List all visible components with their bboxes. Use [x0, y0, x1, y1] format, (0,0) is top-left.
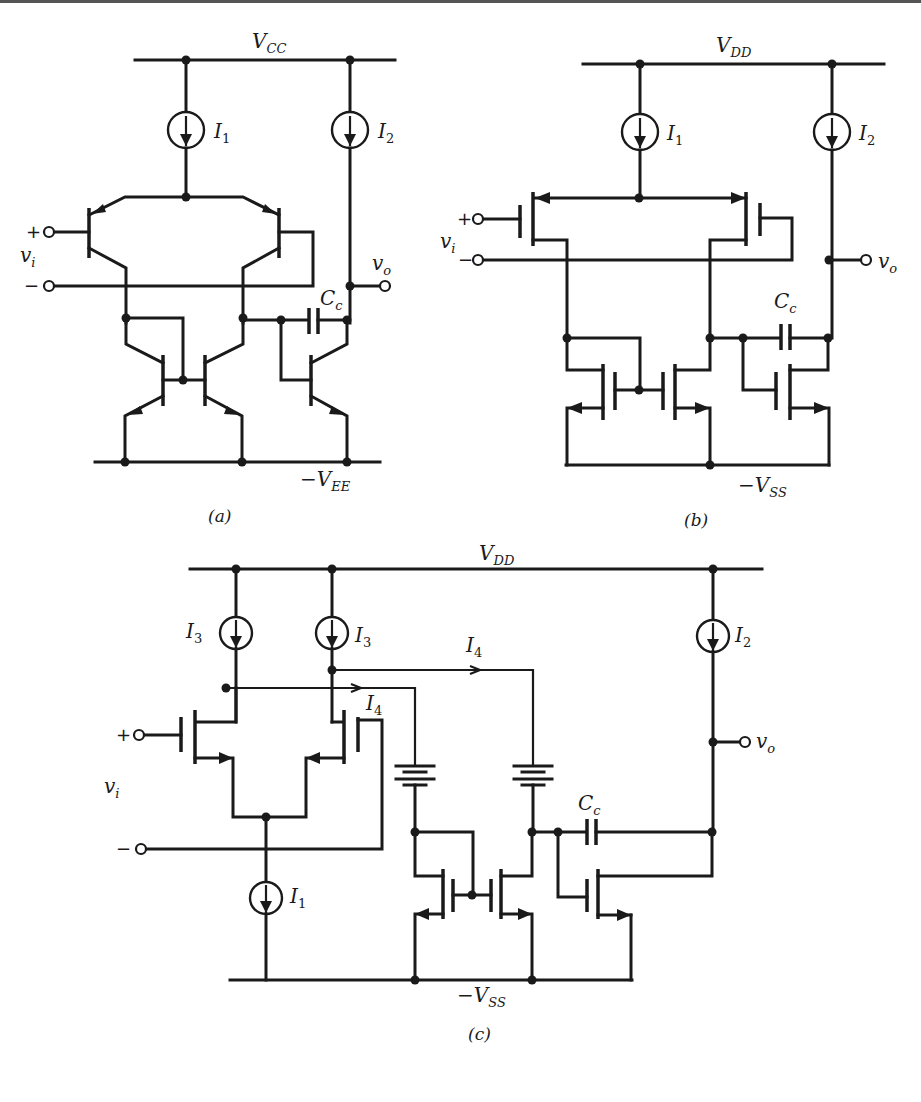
- current-source-icon: [814, 114, 850, 150]
- svg-text:−VSS: −VSS: [457, 983, 506, 1010]
- svg-text:I2: I2: [377, 119, 394, 146]
- circuit-figure: VCC I1 I2 + − vi vo Cc −VEE (a): [0, 0, 921, 1102]
- current-source-icon: [697, 620, 729, 652]
- svg-text:Cc: Cc: [578, 791, 601, 818]
- current-source-icon: [332, 112, 368, 148]
- svg-text:−: −: [116, 838, 131, 859]
- input-minus-terminal: [136, 844, 146, 854]
- caption-c: (c): [468, 1024, 491, 1044]
- svg-text:I2: I2: [858, 121, 875, 148]
- svg-text:vi: vi: [440, 229, 455, 256]
- input-plus-terminal: [134, 730, 144, 740]
- svg-text:I1: I1: [213, 119, 230, 146]
- battery-icon: [396, 766, 434, 785]
- svg-text:−VEE: −VEE: [300, 467, 351, 494]
- output-terminal: [380, 281, 390, 291]
- svg-text:I3: I3: [185, 619, 202, 646]
- svg-text:−: −: [458, 249, 473, 270]
- output-label: vo: [372, 251, 391, 278]
- svg-text:Cc: Cc: [774, 289, 797, 316]
- supply-label: VCC: [252, 29, 286, 56]
- panel-a-bjt-opamp: VCC I1 I2 + − vi vo Cc −VEE (a): [20, 29, 395, 526]
- battery-icon: [514, 766, 552, 785]
- input-minus-terminal: [44, 281, 54, 291]
- emitter-arrow-icon: [262, 204, 276, 214]
- svg-text:vi: vi: [104, 774, 119, 801]
- current-source-icon: [316, 617, 348, 649]
- branch-current-label: I4: [365, 691, 382, 718]
- caption-a: (a): [208, 506, 231, 526]
- svg-text:I2: I2: [734, 623, 751, 650]
- panel-c-folded-opamp: VDD I3 I3 I2 I1 I4 I4 + − vi vo Cc −VSS …: [104, 541, 775, 1044]
- panel-b-cmos-opamp: VDD I1 I2 + − vi vo Cc −VSS (b): [440, 33, 897, 530]
- current-source-icon: [220, 617, 252, 649]
- current-source-icon: [168, 112, 204, 148]
- svg-text:I1: I1: [666, 121, 683, 148]
- svg-text:VDD: VDD: [479, 541, 515, 568]
- svg-text:I1: I1: [289, 884, 306, 911]
- svg-text:+: +: [457, 208, 472, 229]
- branch-current-label: I4: [465, 633, 482, 660]
- input-plus-terminal: [473, 214, 483, 224]
- svg-text:vo: vo: [756, 729, 775, 756]
- input-plus-terminal: [44, 227, 54, 237]
- cap-label: Cc: [320, 286, 343, 313]
- svg-text:I3: I3: [354, 623, 371, 650]
- input-minus-terminal: [473, 255, 483, 265]
- emitter-arrow-icon: [92, 204, 106, 214]
- svg-text:−: −: [24, 275, 39, 296]
- input-label: vi: [20, 243, 35, 270]
- caption-b: (b): [684, 510, 708, 530]
- current-source-icon: [622, 114, 658, 150]
- output-terminal: [861, 255, 871, 265]
- svg-text:vo: vo: [878, 249, 897, 276]
- output-terminal: [740, 737, 750, 747]
- svg-text:VDD: VDD: [716, 33, 752, 60]
- current-source-icon: [250, 882, 282, 914]
- svg-text:+: +: [116, 724, 131, 745]
- svg-text:−VSS: −VSS: [738, 473, 787, 500]
- svg-text:+: +: [26, 221, 41, 242]
